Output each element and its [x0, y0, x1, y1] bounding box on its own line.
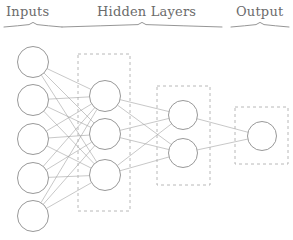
- inputs-label: Inputs: [6, 4, 49, 19]
- hidden1-node-1: [90, 81, 121, 112]
- edge-input-node-2-to-hidden1-node-2: [47, 107, 91, 128]
- edge-hidden1-node-2-to-hidden2-node-1: [120, 118, 169, 130]
- edge-input-node-4-to-hidden1-node-1: [43, 108, 95, 167]
- edge-hidden1-node-1-to-hidden2-node-1: [120, 100, 169, 112]
- neural-network-diagram: Inputs Hidden Layers Output: [0, 0, 293, 240]
- edge-hidden2-node-1-to-output-node-1: [197, 119, 248, 133]
- brace-output-label: [231, 22, 289, 27]
- connections-group: [41, 69, 248, 209]
- edge-hidden2-node-2-to-output-node-1: [197, 139, 248, 150]
- input-node-5: [18, 201, 49, 232]
- network-canvas: [0, 0, 293, 240]
- input-node-2: [18, 85, 49, 116]
- input-node-1: [18, 47, 49, 78]
- brace-group: [4, 22, 289, 27]
- hidden2-node-2: [169, 139, 198, 168]
- edge-hidden1-node-1-to-hidden2-node-2: [118, 105, 172, 144]
- edge-input-node-5-to-hidden1-node-1: [41, 109, 97, 202]
- edge-hidden1-node-3-to-hidden2-node-2: [120, 157, 169, 171]
- nodes-group: [18, 47, 277, 232]
- output-node-1: [248, 122, 277, 151]
- hidden-layers-label: Hidden Layers: [97, 4, 196, 19]
- edge-hidden1-node-3-to-hidden2-node-1: [117, 124, 171, 166]
- edge-hidden1-node-2-to-hidden2-node-2: [120, 138, 169, 150]
- brace-hidden-layers-label: [62, 22, 222, 27]
- brace-inputs-label: [4, 22, 62, 27]
- input-node-3: [18, 124, 49, 155]
- hidden2-node-1: [169, 101, 198, 130]
- edge-input-node-1-to-hidden1-node-1: [47, 69, 91, 90]
- input-node-4: [18, 163, 49, 194]
- edge-input-node-3-to-hidden1-node-1: [46, 104, 91, 131]
- hidden1-node-3: [90, 160, 121, 191]
- edge-input-node-5-to-hidden1-node-3: [46, 183, 91, 209]
- hidden1-node-2: [90, 119, 121, 150]
- output-label: Output: [236, 4, 283, 19]
- edge-input-node-4-to-hidden1-node-3: [48, 176, 89, 178]
- edge-input-node-2-to-hidden1-node-1: [48, 97, 89, 99]
